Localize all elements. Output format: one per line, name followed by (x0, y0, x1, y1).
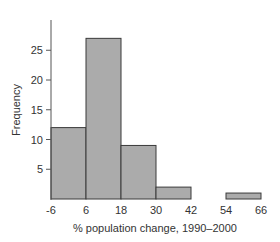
y-axis-label: Frequency (10, 84, 22, 136)
histogram-bar (51, 128, 86, 199)
x-tick-label: 30 (150, 204, 162, 216)
histogram-bar (86, 38, 121, 199)
y-axis-ticks: 510152025 (31, 44, 51, 175)
y-tick-label: 10 (31, 134, 43, 146)
y-tick-label: 5 (37, 163, 43, 175)
x-tick-label: 54 (220, 204, 232, 216)
histogram-bar (121, 145, 156, 199)
x-axis-label: % population change, 1990–2000 (73, 222, 237, 234)
x-tick-label: -6 (46, 204, 56, 216)
y-tick-label: 20 (31, 74, 43, 86)
histogram-bars (51, 38, 261, 199)
histogram-bar (226, 193, 261, 199)
x-axis-ticks: -661830425466 (46, 204, 267, 216)
y-tick-label: 25 (31, 44, 43, 56)
x-tick-label: 6 (83, 204, 89, 216)
histogram-bar (156, 187, 191, 199)
x-tick-label: 42 (185, 204, 197, 216)
x-tick-label: 18 (115, 204, 127, 216)
histogram-chart: 510152025 -661830425466 % population cha… (0, 0, 280, 242)
x-tick-label: 66 (255, 204, 267, 216)
y-tick-label: 15 (31, 104, 43, 116)
